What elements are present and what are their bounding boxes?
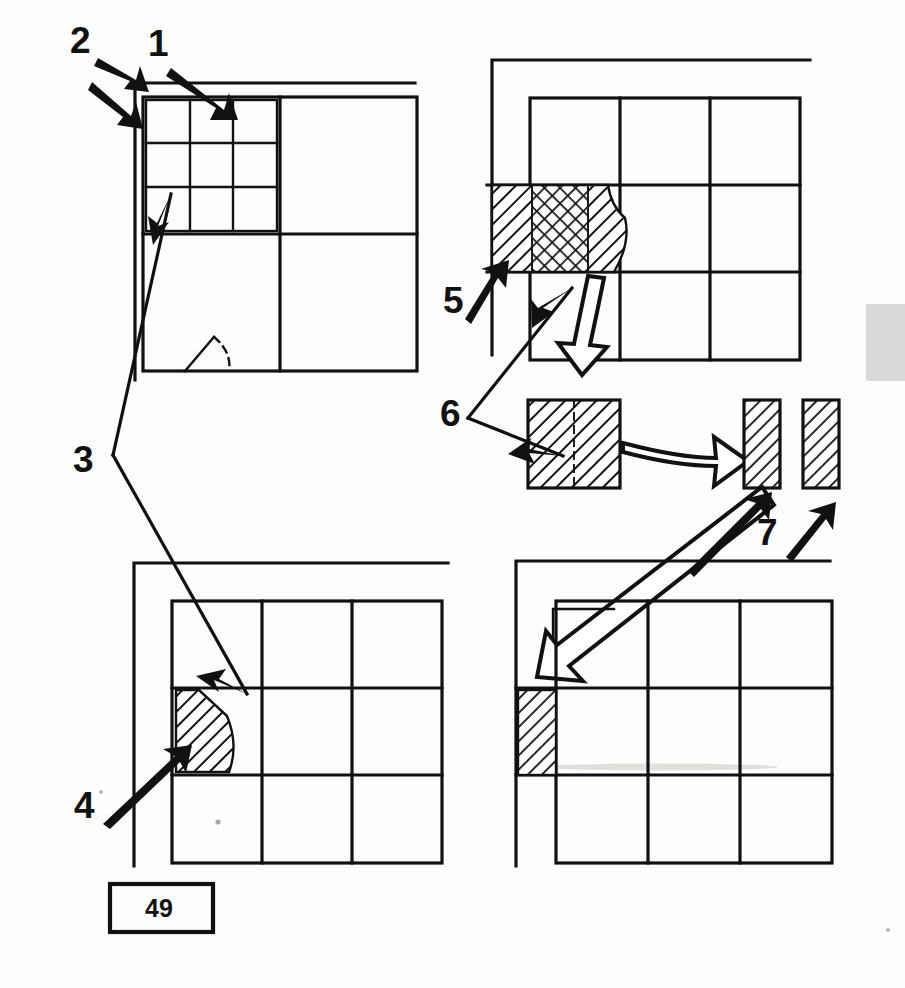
hatch-band-left bbox=[492, 185, 532, 272]
panel-bottom-right-hatched-strip-fill bbox=[518, 690, 556, 775]
scan-speck bbox=[99, 790, 103, 794]
callout-label-5: 5 bbox=[443, 280, 464, 321]
figure-root: 2 1 3 4 5 6 7 49 bbox=[0, 0, 905, 988]
callout-label-4: 4 bbox=[74, 785, 95, 826]
detached-strip-left bbox=[744, 400, 780, 488]
crosshatch-band bbox=[532, 185, 588, 272]
scan-speck bbox=[886, 928, 890, 932]
detached-strip-right bbox=[803, 400, 839, 488]
callout-label-1: 1 bbox=[148, 23, 169, 64]
scan-smudge bbox=[542, 764, 778, 771]
detached-strip-right-fill bbox=[803, 400, 839, 488]
figure-canvas: 2 1 3 4 5 6 7 49 bbox=[0, 0, 905, 988]
callout-label-6: 6 bbox=[440, 393, 461, 434]
callout-label-7: 7 bbox=[757, 512, 778, 553]
detached-square bbox=[528, 400, 620, 488]
page-edge-mark bbox=[866, 304, 905, 381]
detached-strip-left-fill bbox=[744, 400, 780, 488]
panel-top-right-hatched-region bbox=[492, 185, 627, 272]
scan-speck bbox=[215, 819, 220, 824]
callout-label-2: 2 bbox=[70, 20, 91, 61]
page-number-label: 49 bbox=[145, 894, 173, 922]
callout-label-3: 3 bbox=[73, 439, 94, 480]
